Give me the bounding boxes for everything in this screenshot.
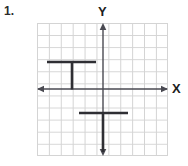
shapes-layer <box>37 23 168 156</box>
upper-t-shape <box>47 62 96 90</box>
lower-t-shape <box>79 113 128 152</box>
y-axis-label: Y <box>98 5 107 18</box>
x-axis-label: X <box>172 82 181 95</box>
coordinate-graph <box>37 23 168 156</box>
problem-number: 1. <box>4 4 14 18</box>
